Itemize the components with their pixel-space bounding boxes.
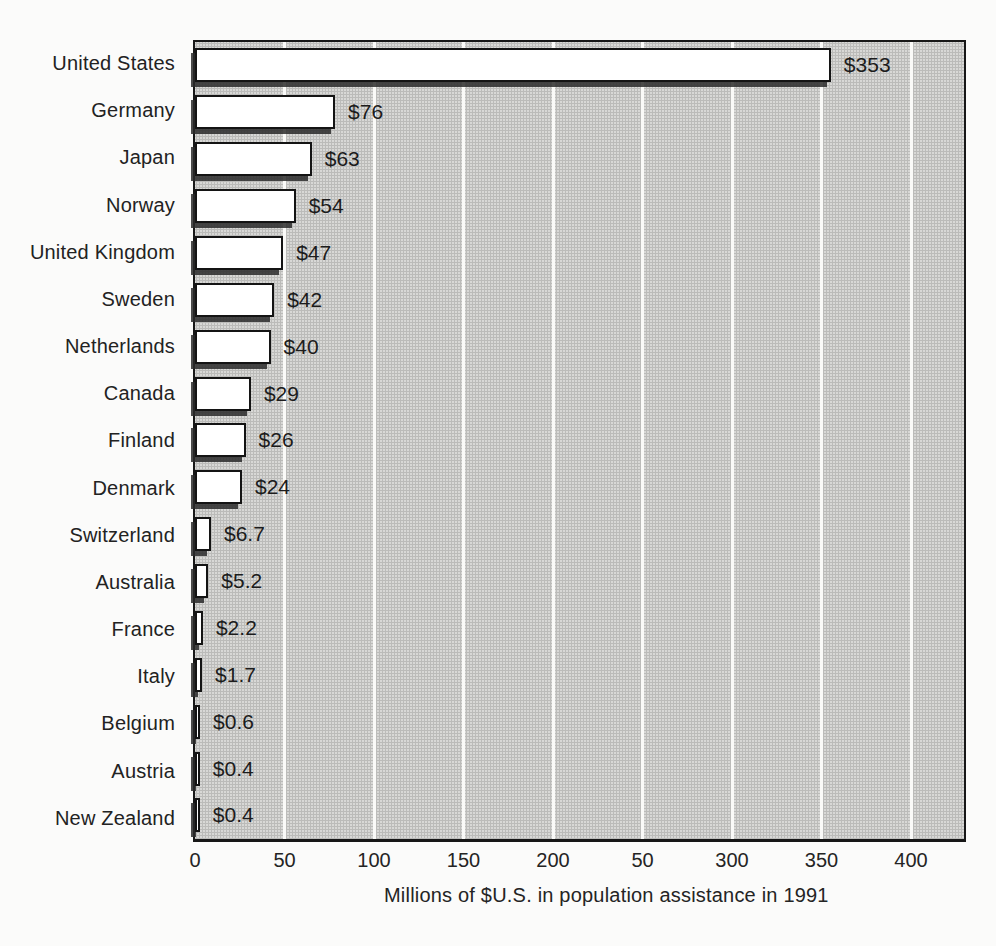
category-label: United Kingdom	[0, 229, 184, 276]
category-label: Austria	[0, 748, 184, 795]
bar-value-label: $0.6	[213, 710, 254, 734]
bar-value-label: $353	[844, 53, 891, 77]
bar-value-label: $40	[284, 335, 319, 359]
category-label: France	[0, 606, 184, 653]
bar-row: $54	[195, 183, 964, 230]
bar	[195, 705, 200, 739]
category-label: Finland	[0, 417, 184, 464]
bar-row: $0.6	[195, 698, 964, 745]
x-axis-tick: 350	[805, 849, 838, 872]
bar-chart-figure: United StatesGermanyJapanNorwayUnited Ki…	[0, 0, 996, 946]
bar	[195, 658, 202, 692]
bar-value-label: $47	[296, 241, 331, 265]
bar-value-label: $76	[348, 100, 383, 124]
category-label: Belgium	[0, 700, 184, 747]
bar	[195, 377, 251, 411]
bar-value-label: $0.4	[213, 803, 254, 827]
x-axis-tick: 400	[894, 849, 927, 872]
x-axis-tick: 200	[536, 849, 569, 872]
bar-value-label: $5.2	[221, 569, 262, 593]
x-axis-tick: 0	[189, 849, 200, 872]
bar-row: $1.7	[195, 651, 964, 698]
bar	[195, 423, 246, 457]
bar-row: $5.2	[195, 558, 964, 605]
bar-row: $24	[195, 464, 964, 511]
bar-value-label: $6.7	[224, 522, 265, 546]
bar-row: $76	[195, 89, 964, 136]
bar	[195, 95, 335, 129]
x-axis-tick: 50	[273, 849, 295, 872]
bar	[195, 330, 271, 364]
category-label: Denmark	[0, 465, 184, 512]
bar-value-label: $54	[309, 194, 344, 218]
bar	[195, 752, 200, 786]
bar-row: $47	[195, 230, 964, 277]
bar	[195, 236, 283, 270]
bar-value-label: $63	[325, 147, 360, 171]
bar-row: $0.4	[195, 745, 964, 792]
bar-row: $2.2	[195, 605, 964, 652]
category-label: Australia	[0, 559, 184, 606]
x-axis: 05010015020050300350400	[0, 849, 996, 877]
x-axis-tick: 300	[715, 849, 748, 872]
plot-area: $353$76$63$54$47$42$40$29$26$24$6.7$5.2$…	[193, 40, 966, 842]
bar-value-label: $0.4	[213, 757, 254, 781]
bar-value-label: $24	[255, 475, 290, 499]
category-label: United States	[0, 40, 184, 87]
category-label: Canada	[0, 370, 184, 417]
bar-value-label: $26	[259, 428, 294, 452]
category-label: New Zealand	[0, 795, 184, 842]
x-axis-title: Millions of $U.S. in population assistan…	[384, 884, 829, 907]
bar-row: $29	[195, 370, 964, 417]
bar-row: $63	[195, 136, 964, 183]
category-label: Japan	[0, 134, 184, 181]
bar	[195, 517, 211, 551]
bar-value-label: $2.2	[216, 616, 257, 640]
category-label: Sweden	[0, 276, 184, 323]
category-label: Netherlands	[0, 323, 184, 370]
bar-value-label: $1.7	[215, 663, 256, 687]
x-axis-tick: 150	[447, 849, 480, 872]
bar-value-label: $42	[287, 288, 322, 312]
bar	[195, 189, 296, 223]
bar-row: $42	[195, 276, 964, 323]
x-axis-tick: 100	[357, 849, 390, 872]
category-label: Norway	[0, 182, 184, 229]
bar-row: $6.7	[195, 511, 964, 558]
bar-row: $353	[195, 42, 964, 89]
bar	[195, 142, 312, 176]
bar	[195, 798, 200, 832]
bar	[195, 283, 274, 317]
bar-rows: $353$76$63$54$47$42$40$29$26$24$6.7$5.2$…	[195, 42, 964, 839]
category-label: Germany	[0, 87, 184, 134]
category-labels: United StatesGermanyJapanNorwayUnited Ki…	[0, 40, 184, 842]
category-label: Italy	[0, 653, 184, 700]
bar-value-label: $29	[264, 382, 299, 406]
x-axis-tick: 50	[631, 849, 653, 872]
bar-row: $0.4	[195, 792, 964, 839]
category-label: Switzerland	[0, 512, 184, 559]
bar	[195, 611, 203, 645]
bar	[195, 564, 208, 598]
bar-row: $26	[195, 417, 964, 464]
bar	[195, 48, 831, 82]
bar-row: $40	[195, 323, 964, 370]
bar	[195, 470, 242, 504]
